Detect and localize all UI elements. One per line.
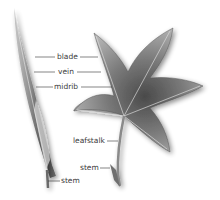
leaf-diagram: blade vein midrib leafstalk stem stem xyxy=(0,0,220,200)
label-leafstalk: leafstalk xyxy=(73,137,105,145)
grass-leaf xyxy=(14,8,56,188)
leaf-illustrations xyxy=(0,0,220,200)
label-midrib: midrib xyxy=(54,83,78,91)
label-stem-right: stem xyxy=(80,164,99,172)
label-stem-left: stem xyxy=(61,177,80,185)
label-vein: vein xyxy=(58,68,74,76)
label-blade: blade xyxy=(57,53,78,61)
